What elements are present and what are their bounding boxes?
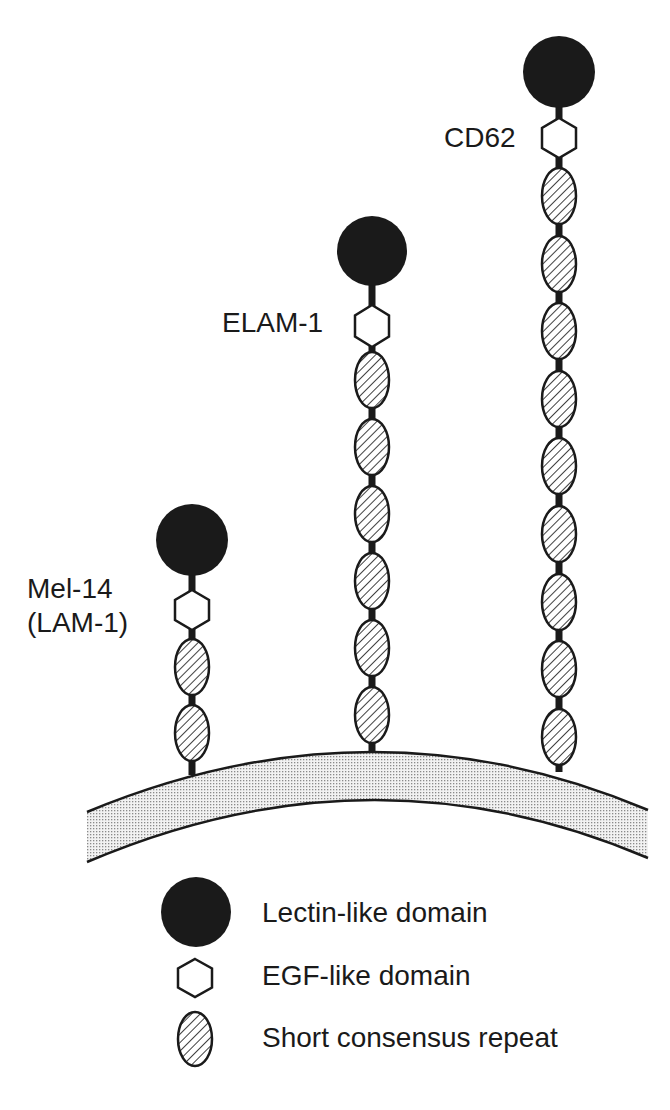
legend-item-scr: Short consensus repeat bbox=[178, 1012, 558, 1066]
egf-domain-icon bbox=[355, 305, 389, 347]
molecule-cd62: CD62 bbox=[444, 36, 595, 772]
cell-membrane bbox=[87, 752, 648, 862]
short-consensus-repeat-icon bbox=[355, 352, 389, 408]
membrane-band bbox=[87, 752, 648, 862]
egf-domain-icon bbox=[542, 118, 576, 158]
legend-label: Short consensus repeat bbox=[262, 1022, 558, 1053]
short-consensus-repeat-icon bbox=[542, 236, 576, 292]
short-consensus-repeat-icon bbox=[175, 639, 209, 695]
legend-item-lectin: Lectin-like domain bbox=[161, 877, 488, 947]
legend-label: Lectin-like domain bbox=[262, 897, 488, 928]
short-consensus-repeat-icon bbox=[542, 574, 576, 630]
molecule-label-cd62: CD62 bbox=[444, 122, 516, 153]
molecule-mel14: Mel-14(LAM-1) bbox=[27, 504, 228, 775]
lectin-domain-icon bbox=[156, 504, 228, 576]
diagram-canvas: Mel-14(LAM-1)ELAM-1CD62 Lectin-like doma… bbox=[0, 0, 670, 1110]
selectin-molecules: Mel-14(LAM-1)ELAM-1CD62 bbox=[27, 36, 595, 775]
short-consensus-repeat-icon bbox=[542, 168, 576, 224]
legend-label: EGF-like domain bbox=[262, 960, 471, 991]
molecule-label-mel14: (LAM-1) bbox=[27, 607, 128, 638]
egf-domain-icon bbox=[178, 959, 212, 997]
short-consensus-repeat-icon bbox=[542, 709, 576, 765]
short-consensus-repeat-icon bbox=[355, 620, 389, 676]
short-consensus-repeat-icon bbox=[542, 438, 576, 494]
short-consensus-repeat-icon bbox=[355, 553, 389, 609]
short-consensus-repeat-icon bbox=[542, 506, 576, 562]
selectin-diagram: Mel-14(LAM-1)ELAM-1CD62 Lectin-like doma… bbox=[0, 0, 670, 1110]
short-consensus-repeat-icon bbox=[542, 641, 576, 697]
legend: Lectin-like domainEGF-like domainShort c… bbox=[161, 877, 558, 1066]
short-consensus-repeat-icon bbox=[175, 705, 209, 761]
legend-item-egf: EGF-like domain bbox=[178, 959, 471, 997]
short-consensus-repeat-icon bbox=[355, 687, 389, 743]
molecule-label-mel14: Mel-14 bbox=[27, 573, 113, 604]
lectin-domain-icon bbox=[337, 216, 407, 286]
egf-domain-icon bbox=[175, 590, 209, 630]
short-consensus-repeat-icon bbox=[542, 303, 576, 359]
short-consensus-repeat-icon bbox=[178, 1012, 212, 1066]
molecule-elam1: ELAM-1 bbox=[222, 216, 407, 752]
short-consensus-repeat-icon bbox=[542, 371, 576, 427]
short-consensus-repeat-icon bbox=[355, 419, 389, 475]
short-consensus-repeat-icon bbox=[355, 486, 389, 542]
molecule-label-elam1: ELAM-1 bbox=[222, 307, 323, 338]
lectin-domain-icon bbox=[523, 36, 595, 108]
lectin-domain-icon bbox=[161, 877, 231, 947]
